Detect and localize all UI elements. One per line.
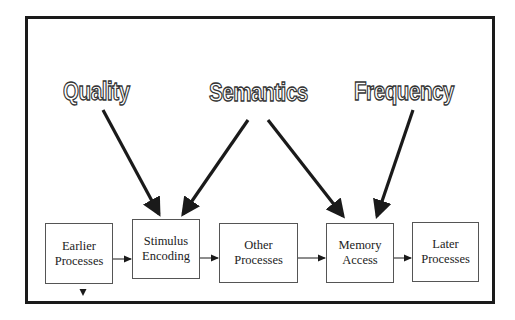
stage-line2: Processes xyxy=(55,254,104,269)
diagram-canvas: Quality Semantics Frequency xyxy=(0,0,515,320)
stage-line2: Access xyxy=(338,253,381,268)
stage-box-later-processes: Later Processes xyxy=(412,222,479,282)
stage-box-earlier-processes: Earlier Processes xyxy=(45,223,113,284)
stage-line1: Later xyxy=(421,237,470,252)
influence-arrow-semantics-stimulus xyxy=(183,120,248,214)
influence-arrow-semantics-memory xyxy=(268,120,343,216)
stage-line2: Encoding xyxy=(142,249,190,264)
stage-line1: Memory xyxy=(338,238,381,253)
stage-box-other-processes: Other Processes xyxy=(219,223,298,283)
influence-arrow-quality-stimulus xyxy=(103,110,159,214)
stage-line1: Other xyxy=(234,238,283,253)
stage-line1: Stimulus xyxy=(142,234,190,249)
influence-arrow-frequency-memory xyxy=(377,110,413,216)
down-triangle-icon xyxy=(80,289,87,296)
stage-line2: Processes xyxy=(234,253,283,268)
stage-line2: Processes xyxy=(421,252,470,267)
stage-line1: Earlier xyxy=(55,239,104,254)
stage-box-stimulus-encoding: Stimulus Encoding xyxy=(132,219,200,279)
stage-box-memory-access: Memory Access xyxy=(326,223,394,283)
